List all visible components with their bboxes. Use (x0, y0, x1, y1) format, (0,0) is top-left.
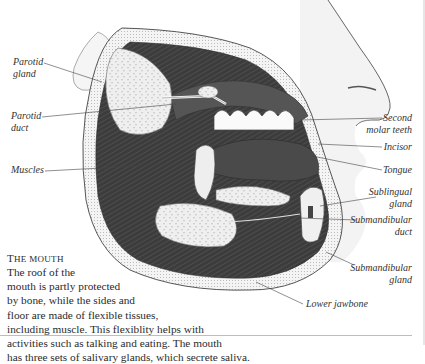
caption-line: floor are made of flexible tissues, (7, 308, 307, 322)
caption-line: mouth is partly protected (7, 279, 307, 293)
label-muscles: Muscles (11, 164, 44, 176)
label-submandibular-gland: Submandibular gland (350, 262, 412, 286)
label-second-molar-line2: molar teeth (366, 124, 412, 136)
label-submandibular-gland-line1: Submandibular (350, 262, 412, 274)
caption-title: The mouth (7, 252, 307, 265)
caption-title-rest: he mouth (14, 254, 64, 264)
label-sublingual-line1: Sublingual (369, 186, 412, 198)
label-submandibular-gland-line2: gland (350, 274, 412, 286)
tongue (206, 139, 319, 181)
label-parotid-gland: Parotid gland (13, 56, 43, 80)
label-lower-jawbone: Lower jawbone (306, 298, 368, 310)
caption-line: The roof of the (7, 265, 307, 279)
label-parotid-duct-line2: duct (11, 122, 41, 134)
label-parotid-duct: Parotid duct (11, 110, 41, 134)
label-submandibular-duct: Submandibular duct (350, 214, 412, 238)
upper-teeth (214, 110, 294, 130)
caption-line: by bone, while the sides and (7, 293, 307, 307)
bottom-divider (0, 335, 412, 336)
label-parotid-gland-line1: Parotid (13, 56, 43, 68)
caption-line: including muscle. This flexiblity helps … (7, 322, 307, 336)
label-incisor: Incisor (384, 141, 412, 153)
label-submandibular-duct-line2: duct (350, 226, 412, 238)
label-second-molar-teeth: Second molar teeth (366, 112, 412, 136)
caption-line: has three sets of salivary glands, which… (7, 350, 307, 364)
caption-title-initial: T (7, 252, 14, 264)
label-sublingual-gland: Sublingual gland (369, 186, 412, 210)
label-tongue: Tongue (383, 164, 412, 176)
caption-line: activities such as talking and eating. T… (7, 336, 307, 350)
label-parotid-gland-line2: gland (13, 68, 43, 80)
label-submandibular-duct-line1: Submandibular (350, 214, 412, 226)
label-sublingual-line2: gland (369, 198, 412, 210)
label-second-molar-line1: Second (366, 112, 412, 124)
label-parotid-duct-line1: Parotid (11, 110, 41, 122)
figure-caption: The mouth The roof of the mouth is partl… (7, 252, 307, 364)
